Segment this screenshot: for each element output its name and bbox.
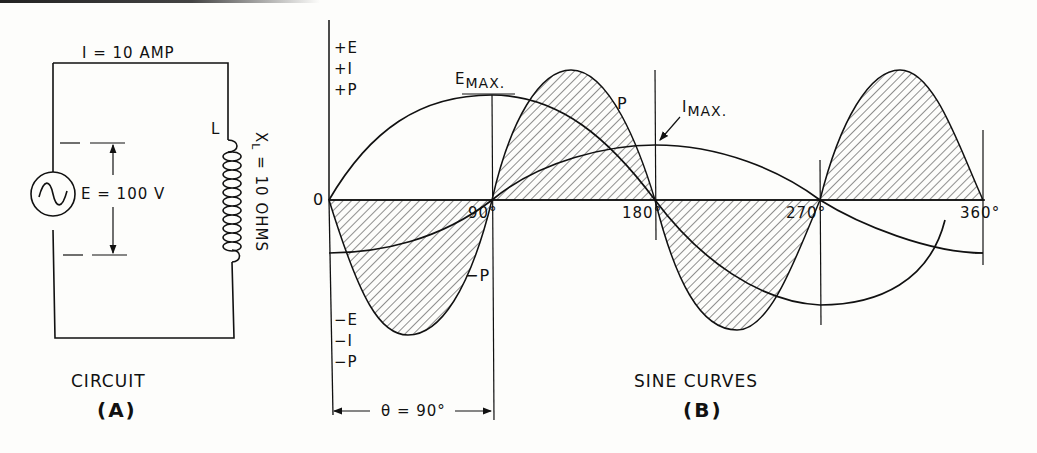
emax-subscript: MAX. bbox=[465, 75, 505, 91]
diagram-drawing bbox=[0, 0, 1037, 453]
emax-label: EMAX. bbox=[455, 72, 505, 87]
current-label: I = 10 AMP bbox=[82, 46, 175, 61]
reactance-symbol: X bbox=[252, 132, 270, 143]
x-tick-360: 360° bbox=[960, 206, 1000, 221]
sine-wave-icon bbox=[39, 183, 67, 205]
emax-symbol: E bbox=[455, 70, 465, 88]
imax-subscript: MAX. bbox=[687, 103, 727, 119]
reactance-subscript: L bbox=[249, 143, 262, 150]
inductor-label: L bbox=[211, 122, 220, 137]
circuit-caption: CIRCUIT bbox=[71, 373, 146, 390]
imax-label: IMAX. bbox=[682, 100, 727, 115]
y-pos-e: +E bbox=[334, 41, 358, 56]
x-tick-180: 180° bbox=[622, 206, 662, 221]
y-neg-e: −E bbox=[334, 313, 358, 328]
sine-curves-caption: SINE CURVES bbox=[634, 373, 758, 390]
y-neg-i: −I bbox=[334, 334, 353, 349]
x-tick-90: 90° bbox=[468, 206, 498, 221]
origin-label: 0 bbox=[313, 192, 324, 208]
voltage-label: E = 100 V bbox=[81, 187, 165, 202]
y-pos-i: +I bbox=[334, 62, 353, 77]
reactance-value: = 10 OHMS bbox=[252, 150, 270, 252]
power-label: P bbox=[617, 96, 628, 112]
theta-label: θ = 90° bbox=[381, 404, 446, 419]
panel-b-letter: (B) bbox=[683, 400, 723, 420]
negative-power-label: −P bbox=[465, 268, 490, 284]
reactance-label: XL = 10 OHMS bbox=[253, 132, 268, 252]
panel-a-letter: (A) bbox=[97, 400, 137, 420]
inductor-coil-icon bbox=[223, 140, 241, 262]
y-neg-p: −P bbox=[334, 355, 358, 370]
y-pos-p: +P bbox=[334, 83, 358, 98]
x-tick-270: 270° bbox=[786, 206, 826, 221]
